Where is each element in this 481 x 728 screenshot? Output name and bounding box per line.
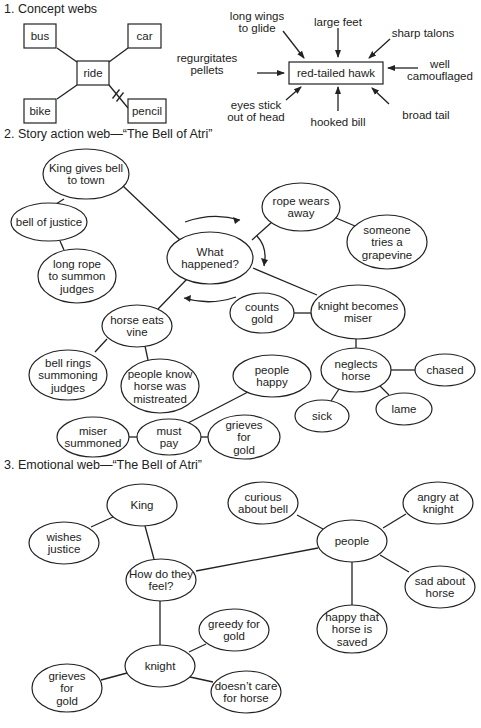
bubble-knight2: knight bbox=[125, 645, 195, 687]
bubble-bell-rings: bell ringssummoningjudges bbox=[29, 350, 107, 400]
bubble-label: bell rings bbox=[45, 357, 91, 369]
section-heading-emotional: 3. Emotional web—“The Bell of Atri” bbox=[4, 458, 202, 472]
bubble-label: horse eats bbox=[110, 314, 164, 326]
bubble-miser-summoned: misersummoned bbox=[57, 417, 129, 457]
bubble-label: about bell bbox=[238, 503, 288, 515]
bubble-label: people bbox=[335, 535, 370, 547]
connector-line bbox=[380, 555, 409, 572]
box-label-bus: bus bbox=[31, 30, 50, 42]
bubble-must-pay: mustpay bbox=[137, 419, 201, 455]
bubble-doesnt-care: doesn’t carefor horse bbox=[211, 671, 281, 713]
attribute-label-well-camouflaged: camouflaged bbox=[407, 70, 473, 82]
bubble-label: grieves bbox=[225, 419, 262, 431]
emotional-nodes: KingwishesjusticeHow do theyfeel?curious… bbox=[29, 482, 475, 713]
connector-line bbox=[190, 677, 213, 682]
bubble-people-know: people knowhorse wasmistreated bbox=[121, 359, 199, 413]
connector-line bbox=[60, 241, 64, 250]
bubble-label: grapevine bbox=[362, 249, 413, 261]
connector-line bbox=[145, 346, 148, 360]
box-label-red-tailed-hawk: red-tailed hawk bbox=[297, 67, 375, 79]
arrowhead-icon bbox=[184, 295, 191, 302]
bubble-label: gold bbox=[251, 313, 273, 325]
bubble-label: gold bbox=[233, 444, 255, 456]
connector-line bbox=[95, 339, 107, 352]
bubble-lame: lame bbox=[376, 393, 432, 425]
bubble-greedy: greedy forgold bbox=[199, 609, 269, 651]
bubble-label: happened? bbox=[181, 258, 239, 270]
bubble-label: lame bbox=[392, 403, 417, 415]
bubble-king: King gives bellto town bbox=[43, 149, 129, 199]
bubble-label: wishes bbox=[45, 531, 81, 543]
concept-web-hawk: red-tailed hawklong wingsto glidelarge f… bbox=[177, 10, 473, 128]
connector-line bbox=[253, 268, 317, 295]
bubble-rope-wears: rope wearsaway bbox=[262, 183, 340, 231]
attribute-label-regurgitates-pellets: regurgitates bbox=[177, 52, 238, 64]
bubble-label: for bbox=[60, 682, 74, 694]
bubble-king2: King bbox=[107, 484, 177, 526]
bubble-neglects-horse: neglectshorse bbox=[321, 348, 391, 392]
bubble-label: summoned bbox=[65, 437, 122, 449]
connector-ride-bike bbox=[57, 85, 77, 99]
bubble-label: King gives bell bbox=[49, 162, 123, 174]
arrow-icon-long-wings-to-glide bbox=[283, 31, 304, 58]
bubble-people2: people bbox=[317, 520, 387, 562]
bubble-label: people know bbox=[128, 368, 193, 380]
bubble-label: people bbox=[255, 364, 290, 376]
bubble-sad-horse: sad abouthorse bbox=[405, 566, 475, 608]
bubble-label: angry at bbox=[417, 491, 459, 503]
connector-line bbox=[252, 222, 272, 240]
story-nodes: King gives bellto townbell of justicelon… bbox=[11, 149, 475, 459]
bubble-chased: chased bbox=[415, 354, 475, 386]
bubble-label: summoning bbox=[38, 369, 97, 381]
connector-line bbox=[336, 218, 355, 226]
bubble-label: happy that bbox=[325, 611, 380, 623]
box-label-car: car bbox=[137, 30, 153, 42]
bubble-what-happened: Whathappened? bbox=[167, 232, 253, 284]
arrowhead-icon bbox=[261, 258, 268, 266]
bubble-label: greedy for bbox=[208, 618, 260, 630]
bubble-label: someone bbox=[363, 224, 410, 236]
attribute-label-eyes-stick-out-of-head: out of head bbox=[227, 111, 285, 123]
connector-ride-bus bbox=[57, 48, 77, 62]
bubble-label: pay bbox=[160, 437, 179, 449]
attribute-label-long-wings-to-glide: to glide bbox=[238, 22, 275, 34]
attribute-label-hooked-bill: hooked bill bbox=[311, 116, 366, 128]
bubble-label: for horse bbox=[223, 692, 268, 704]
bubble-label: judges bbox=[50, 382, 85, 394]
connector-line bbox=[383, 514, 406, 528]
bubble-label: must bbox=[157, 425, 183, 437]
attribute-label-eyes-stick-out-of-head: eyes stick bbox=[231, 99, 282, 111]
bubble-people-happy: peoplehappy bbox=[233, 355, 311, 397]
bubble-label: What bbox=[197, 246, 225, 258]
bubble-label: miser bbox=[344, 312, 372, 324]
box-label-pencil: pencil bbox=[132, 105, 162, 117]
bubble-counts-gold: countsgold bbox=[230, 293, 294, 333]
section-heading-story: 2. Story action web—“The Bell of Atri” bbox=[4, 127, 212, 141]
bubble-label: curious bbox=[244, 491, 281, 503]
box-label-ride: ride bbox=[83, 67, 102, 79]
broken-link-mark bbox=[117, 93, 124, 102]
bubble-label: horse is bbox=[332, 623, 373, 635]
connector-line bbox=[189, 644, 206, 652]
bubble-label: chased bbox=[426, 364, 463, 376]
arrow-icon-sharp-talons bbox=[369, 39, 390, 58]
connector-line bbox=[91, 517, 113, 527]
attribute-label-well-camouflaged: well bbox=[429, 58, 450, 70]
connector-line bbox=[297, 515, 323, 529]
bubble-label: sick bbox=[312, 410, 332, 422]
concept-web-ride: ridebuscarbikepencil bbox=[24, 24, 166, 123]
connector-line bbox=[380, 386, 389, 395]
connector-line bbox=[123, 186, 180, 240]
bubble-label: horse bbox=[426, 587, 455, 599]
bubble-label: grieves bbox=[48, 670, 85, 682]
bubble-grieves-gold-2: grievesforgold bbox=[32, 664, 102, 712]
attribute-label-regurgitates-pellets: pellets bbox=[190, 64, 223, 76]
bubble-label: counts bbox=[245, 301, 279, 313]
connector-line bbox=[101, 673, 127, 680]
bubble-long-rope: long ropeto summonjudges bbox=[38, 249, 116, 303]
connector-line bbox=[158, 278, 188, 309]
bubble-label: King bbox=[130, 499, 153, 511]
connector-ride-car bbox=[109, 48, 128, 62]
bubble-label: gold bbox=[223, 630, 245, 642]
bubble-label: knight bbox=[145, 660, 176, 672]
